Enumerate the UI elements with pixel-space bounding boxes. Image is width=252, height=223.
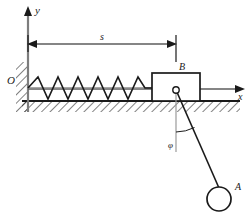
diagram-canvas: y O x s B xyxy=(0,0,252,223)
spring xyxy=(28,77,152,99)
dimension-s: s xyxy=(27,31,177,62)
pendulum-angle-label: φ xyxy=(168,140,173,150)
ground-hatch xyxy=(22,101,240,112)
pendulum-bob xyxy=(207,187,231,211)
x-axis-label: x xyxy=(237,91,243,102)
pendulum-pivot-joint xyxy=(173,87,179,93)
block-label-b: B xyxy=(179,61,185,72)
pendulum-bob-label-a: A xyxy=(234,181,242,192)
dimension-label-s: s xyxy=(100,31,104,42)
physics-diagram: y O x s B xyxy=(0,0,252,223)
pendulum-angle-arc xyxy=(176,128,195,133)
ground xyxy=(22,101,240,112)
y-axis-arrowhead xyxy=(24,6,32,16)
origin-label: O xyxy=(7,74,15,86)
y-axis-label: y xyxy=(34,4,40,16)
